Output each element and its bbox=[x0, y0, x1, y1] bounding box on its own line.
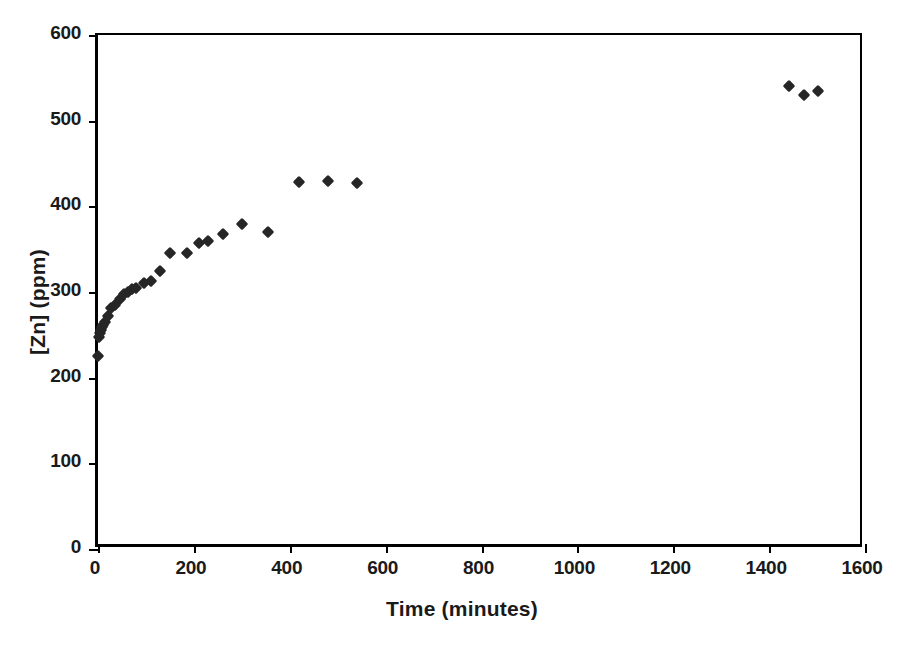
x-tick-label: 1400 bbox=[721, 557, 811, 579]
x-tick bbox=[194, 544, 196, 553]
y-tick-label: 0 bbox=[11, 536, 81, 558]
y-tick-label: 100 bbox=[11, 450, 81, 472]
x-tick-label: 1000 bbox=[529, 557, 619, 579]
data-point bbox=[92, 350, 105, 363]
x-tick-label: 1600 bbox=[817, 557, 907, 579]
data-point bbox=[262, 226, 275, 239]
x-tick-label: 600 bbox=[338, 557, 428, 579]
data-point bbox=[812, 84, 825, 97]
y-tick bbox=[89, 549, 98, 551]
x-tick bbox=[577, 544, 579, 553]
x-tick-label: 1200 bbox=[625, 557, 715, 579]
y-tick bbox=[89, 463, 98, 465]
y-tick bbox=[89, 121, 98, 123]
x-tick bbox=[673, 544, 675, 553]
x-tick-label: 0 bbox=[50, 557, 140, 579]
y-tick bbox=[89, 206, 98, 208]
data-point bbox=[350, 177, 363, 190]
y-tick bbox=[89, 292, 98, 294]
x-tick bbox=[769, 544, 771, 553]
x-tick-label: 800 bbox=[434, 557, 524, 579]
data-point bbox=[164, 247, 177, 260]
x-tick bbox=[290, 544, 292, 553]
y-tick bbox=[89, 35, 98, 37]
x-tick bbox=[482, 544, 484, 553]
y-tick-label: 400 bbox=[11, 193, 81, 215]
scatter-chart: [Zn] (ppm) Time (minutes) 01002003004005… bbox=[0, 0, 924, 645]
y-tick-label: 600 bbox=[11, 22, 81, 44]
data-point bbox=[180, 247, 193, 260]
y-tick-label: 300 bbox=[11, 279, 81, 301]
x-tick bbox=[98, 544, 100, 553]
x-tick bbox=[386, 544, 388, 553]
data-point bbox=[322, 175, 335, 188]
y-tick-label: 500 bbox=[11, 108, 81, 130]
data-point bbox=[797, 89, 810, 102]
data-point bbox=[783, 80, 796, 93]
x-tick-label: 400 bbox=[242, 557, 332, 579]
data-point bbox=[202, 234, 215, 247]
plot-area bbox=[95, 33, 862, 547]
data-point bbox=[293, 176, 306, 189]
data-points-layer bbox=[98, 35, 860, 544]
x-tick bbox=[865, 544, 867, 553]
x-axis-title: Time (minutes) bbox=[0, 597, 924, 621]
y-tick-label: 200 bbox=[11, 365, 81, 387]
data-point bbox=[235, 218, 248, 231]
data-point bbox=[154, 265, 167, 278]
y-tick bbox=[89, 378, 98, 380]
data-point bbox=[216, 227, 229, 240]
x-tick-label: 200 bbox=[146, 557, 236, 579]
